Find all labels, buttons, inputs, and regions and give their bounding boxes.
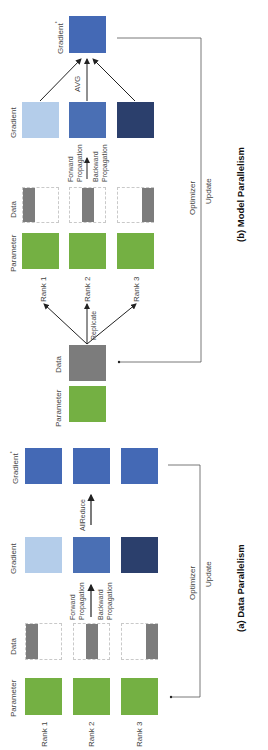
dp-caption: (a) Data Parallelism — [236, 544, 246, 632]
dp-data-rank1 — [25, 623, 62, 660]
mp-optimizer-label: Optimizer — [189, 181, 197, 215]
dp-gradient-star-label: Gradient* — [10, 451, 20, 484]
mp-parameter-rank2 — [69, 233, 106, 269]
dp-gradient-star-rank2 — [73, 448, 110, 484]
dp-gradient-rank3 — [121, 537, 158, 573]
dp-optimizer-label: Optimizer — [189, 566, 197, 600]
mp-backward-label: BackwardPropagation — [91, 144, 109, 182]
mp-gradient-label: Gradient — [10, 107, 18, 138]
mp-rank1-label: Rank 1 — [40, 277, 48, 302]
dp-gradient-rank1 — [25, 537, 62, 573]
mp-parameter-rank1 — [22, 233, 59, 269]
mp-gradient-star-box — [69, 16, 106, 53]
dp-forward-label: ForwardPropagation — [68, 582, 86, 620]
mp-source-parameter-label: Parameter — [55, 390, 63, 427]
mp-data-rank1 — [22, 187, 59, 223]
mp-source-data-box — [69, 345, 106, 381]
dp-allreduce-label: AllReduce — [78, 499, 87, 531]
dp-gradient-star-rank1 — [25, 448, 62, 484]
mp-rank2-label: Rank 2 — [84, 277, 92, 302]
dp-parameter-rank3 — [121, 678, 158, 715]
mp-gradient-rank3 — [117, 102, 154, 138]
mp-source-data-label: Data — [55, 356, 63, 373]
mp-forward-label: ForwardPropagation — [66, 144, 84, 182]
dp-rank3-label: Rank 3 — [136, 722, 144, 747]
mp-data-rank3 — [117, 187, 154, 223]
dp-gradient-star-rank3 — [121, 448, 158, 484]
dp-data-label: Data — [10, 638, 18, 655]
mp-update-label: Update — [205, 178, 213, 204]
dp-update-label: Update — [205, 561, 213, 587]
mp-data-rank2 — [69, 187, 106, 223]
dp-data-rank3 — [121, 623, 158, 660]
dp-backward-label: BackwardPropagation — [96, 582, 114, 620]
mp-gradient-rank2 — [69, 102, 106, 138]
dp-gradient-label: Gradient — [10, 543, 18, 574]
dp-parameter-rank1 — [25, 678, 62, 715]
dp-rank2-label: Rank 2 — [88, 722, 96, 747]
mp-replicate-label: Replicate — [89, 311, 98, 340]
mp-avg-label: AVG — [74, 76, 82, 92]
mp-gradient-rank1 — [22, 102, 59, 138]
mp-parameter-rank3 — [117, 233, 154, 269]
mp-source-parameter-box — [69, 386, 106, 422]
mp-rank3-label: Rank 3 — [133, 277, 141, 302]
mp-gradient-star-label: Gradient* — [55, 21, 65, 54]
dp-data-rank2 — [73, 623, 110, 660]
mp-data-label: Data — [10, 201, 18, 218]
mp-caption: (b) Model Parallelism — [236, 147, 246, 242]
mp-parameter-label: Parameter — [10, 235, 18, 272]
dp-parameter-label: Parameter — [10, 680, 18, 717]
dp-parameter-rank2 — [73, 678, 110, 715]
dp-rank1-label: Rank 1 — [41, 722, 49, 747]
dp-gradient-rank2 — [73, 537, 110, 573]
